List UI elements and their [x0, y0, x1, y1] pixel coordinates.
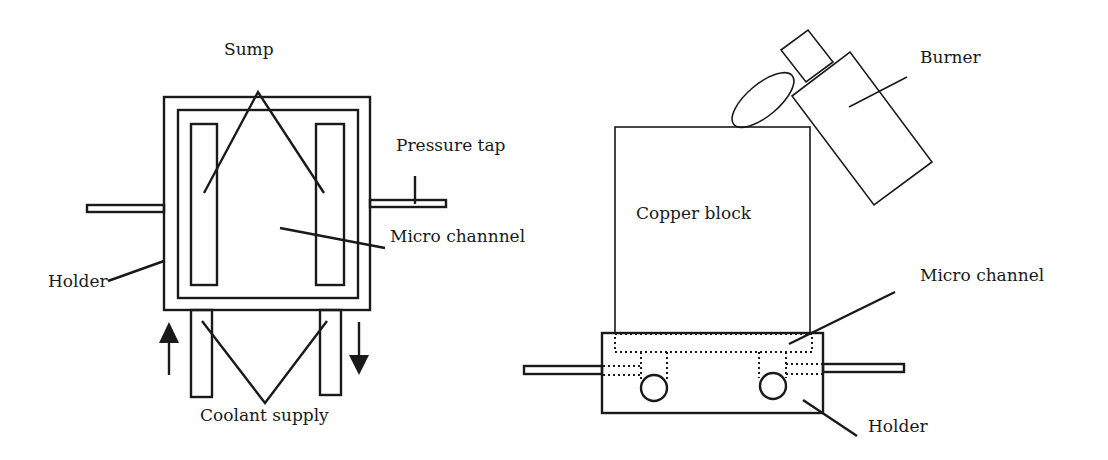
- label-sump: Sump: [224, 39, 274, 59]
- coolant-outlet-leg: [320, 310, 341, 395]
- coolant-inlet-leg: [191, 310, 212, 397]
- label-coolant-supply: Coolant supply: [200, 405, 329, 425]
- arrow-down-icon: [349, 322, 369, 375]
- holder-inner-frame: [178, 110, 358, 298]
- micro-channel-cavity: [615, 334, 812, 352]
- label-micro-channel-left: Micro channnel: [390, 226, 525, 246]
- burner-leader: [849, 77, 907, 107]
- label-pressure-tap: Pressure tap: [396, 135, 506, 155]
- burner-body: [792, 52, 932, 205]
- burner: [781, 30, 932, 205]
- label-holder-left: Holder: [48, 271, 108, 291]
- coolant-supply-leader: [202, 321, 327, 403]
- experimental-setup-diagram: Sump Pressure tap Micro channnel Holder …: [0, 0, 1108, 460]
- sump-leader: [204, 92, 324, 193]
- sump-slot-left: [191, 124, 217, 285]
- left-view-holder-assembly: [87, 97, 446, 397]
- holder-outer-frame: [164, 97, 370, 310]
- holder-body: [602, 333, 823, 413]
- holder-leader-left: [108, 261, 164, 281]
- side-tube-right-view-right: [823, 364, 904, 372]
- right-view-leaders: [789, 77, 907, 436]
- side-tube-left: [87, 205, 164, 212]
- copper-block: [615, 127, 810, 333]
- label-burner: Burner: [920, 47, 982, 67]
- coolant-port-right: [760, 373, 786, 399]
- flame-icon: [724, 63, 803, 136]
- burner-nozzle: [781, 30, 833, 82]
- holder-leader-right: [803, 400, 857, 436]
- pressure-tap-tube: [370, 200, 446, 207]
- coolant-port-left: [641, 375, 667, 401]
- label-micro-channel-right: Micro channel: [920, 265, 1044, 285]
- sump-slot-right: [316, 124, 344, 285]
- micro-channel-leader-right: [789, 292, 895, 344]
- label-copper-block: Copper block: [636, 203, 752, 223]
- arrow-up-icon: [159, 322, 179, 375]
- side-tube-right-view-left: [524, 366, 602, 374]
- label-holder-right: Holder: [868, 416, 928, 436]
